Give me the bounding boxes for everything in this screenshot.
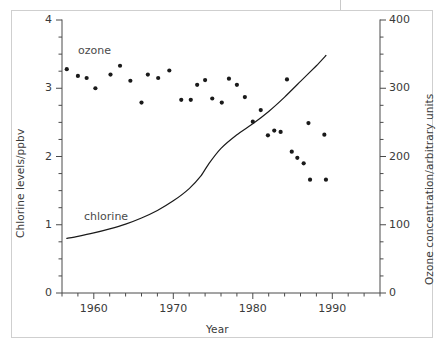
data-point-ozone [220,100,224,104]
y-right-tick-label: 100 [389,218,423,231]
y-left-tick-label: 4 [22,13,52,26]
y-right-tick-label: 200 [389,150,423,163]
data-point-ozone [195,83,199,87]
y-right-tick-label: 400 [389,13,423,26]
data-point-ozone [118,64,122,68]
data-point-ozone [322,133,326,137]
x-tick-label: 1980 [230,302,276,315]
data-point-ozone [210,96,214,100]
x-axis-title: Year [206,323,229,335]
x-tick-label: 1990 [309,302,355,315]
x-tick-label: 1970 [150,302,196,315]
data-point-ozone [272,128,276,132]
data-point-ozone [146,73,150,77]
data-point-ozone [306,121,310,125]
data-point-ozone [85,76,89,80]
series-label-chlorine: chlorine [84,210,128,223]
data-point-ozone [128,79,132,83]
data-point-ozone [243,95,247,99]
data-point-ozone [203,78,207,82]
data-point-ozone [76,74,80,78]
data-point-ozone [266,133,270,137]
y-left-tick-label: 3 [22,81,52,94]
y-left-tick-label: 0 [22,286,52,299]
data-point-ozone [279,130,283,134]
data-point-ozone [179,98,183,102]
data-point-ozone [302,161,306,165]
data-point-ozone [227,77,231,81]
y-right-tick-label: 300 [389,81,423,94]
data-point-ozone [108,73,112,77]
y-left-tick-label: 2 [22,150,52,163]
chart-axes [56,20,386,300]
data-point-ozone [167,68,171,72]
data-point-ozone [189,98,193,102]
data-point-ozone [290,150,294,154]
data-point-ozone [139,100,143,104]
x-tick-label: 1960 [71,302,117,315]
y-right-tick-label: 0 [389,286,423,299]
data-point-ozone [235,83,239,87]
data-point-ozone [324,178,328,182]
y-left-tick-label: 1 [22,218,52,231]
data-point-ozone [65,67,69,71]
data-point-ozone [285,77,289,81]
data-point-ozone [259,108,263,112]
data-point-ozone [156,76,160,80]
chart-page: Chlorine levels/ppbv Ozone concentration… [0,0,444,348]
chart-svg [0,0,444,348]
data-point-ozone [93,86,97,90]
y-axis-right-title: Ozone concentration/arbitrary units [423,94,435,285]
series-label-ozone: ozone [78,44,111,57]
data-point-ozone [295,156,299,160]
data-point-ozone [308,178,312,182]
